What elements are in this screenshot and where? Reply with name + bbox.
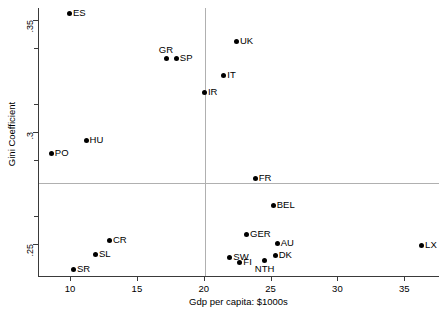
x-tick-major (70, 276, 71, 281)
data-point-marker[interactable] (227, 255, 232, 260)
data-point-label: NTH (255, 264, 275, 274)
data-point-label: SP (180, 53, 193, 63)
data-point-label: GR (159, 45, 173, 55)
x-tick-label-text: 20 (198, 283, 209, 294)
data-point-label: BEL (277, 200, 295, 210)
data-point-label: UK (240, 36, 253, 46)
y-tick-label-text: .35 (25, 20, 35, 33)
data-point-marker[interactable] (244, 232, 249, 237)
x-tick-major (137, 276, 138, 281)
data-point-label: CR (113, 235, 127, 245)
x-tick-major (337, 276, 338, 281)
data-point-marker[interactable] (253, 176, 258, 181)
y-tick-label-text: .25 (25, 244, 35, 257)
data-point-label: PO (55, 148, 69, 158)
data-point-marker[interactable] (273, 253, 278, 258)
data-point-label: HU (90, 135, 104, 145)
y-axis-title-text: Gini Coefficient (6, 102, 17, 166)
x-tick-major (404, 276, 405, 281)
data-point-label: IR (208, 87, 218, 97)
reference-line-horizontal (38, 183, 439, 184)
data-point-label: SL (99, 249, 111, 259)
x-tick-major (204, 276, 205, 281)
data-point-marker[interactable] (107, 238, 112, 243)
data-point-marker[interactable] (234, 39, 239, 44)
reference-line-vertical (205, 8, 206, 276)
data-point-label: AU (281, 238, 294, 248)
data-point-marker[interactable] (237, 260, 242, 265)
x-axis-title: Gdp per capita: $1000s (38, 296, 439, 307)
data-point-marker[interactable] (164, 56, 169, 61)
x-axis-title-text: Gdp per capita: $1000s (189, 296, 288, 307)
y-axis-title: Gini Coefficient (4, 0, 18, 268)
y-tick-minor (34, 216, 38, 217)
data-point-marker[interactable] (84, 138, 89, 143)
data-point-marker[interactable] (93, 252, 98, 257)
data-point-label: SR (77, 264, 90, 274)
data-point-label: ES (73, 8, 86, 18)
data-point-label: GER (250, 229, 271, 239)
data-point-marker[interactable] (271, 203, 276, 208)
y-tick-minor (34, 104, 38, 105)
data-point-marker[interactable] (67, 11, 72, 16)
data-point-label: DK (279, 250, 292, 260)
data-point-label: IT (227, 70, 235, 80)
data-point-label: LX (425, 240, 437, 250)
data-point-marker[interactable] (262, 258, 267, 263)
data-point-label: FR (259, 173, 272, 183)
x-tick-label-text: 15 (132, 283, 143, 294)
y-tick-minor (34, 48, 38, 49)
y-tick-minor (34, 160, 38, 161)
scatter-plot-figure: .25.3.35 101520253035 ESGRSPUKITIRHUPOFR… (0, 0, 447, 314)
y-tick-label-text: .3 (25, 132, 35, 140)
data-point-marker[interactable] (174, 56, 179, 61)
data-point-marker[interactable] (419, 243, 424, 248)
data-point-marker[interactable] (49, 151, 54, 156)
data-point-marker[interactable] (275, 241, 280, 246)
data-point-marker[interactable] (71, 267, 76, 272)
x-tick-major (271, 276, 272, 281)
plot-area: .25.3.35 101520253035 ESGRSPUKITIRHUPOFR… (38, 8, 439, 276)
data-point-marker[interactable] (202, 90, 207, 95)
data-point-label: FI (243, 257, 251, 267)
y-axis-line (38, 8, 39, 276)
x-tick-label-text: 30 (332, 283, 343, 294)
x-tick-label-text: 10 (65, 283, 76, 294)
x-tick-label-text: 25 (265, 283, 276, 294)
x-tick-label-text: 35 (399, 283, 410, 294)
data-point-marker[interactable] (221, 73, 226, 78)
x-axis-line (38, 276, 439, 277)
